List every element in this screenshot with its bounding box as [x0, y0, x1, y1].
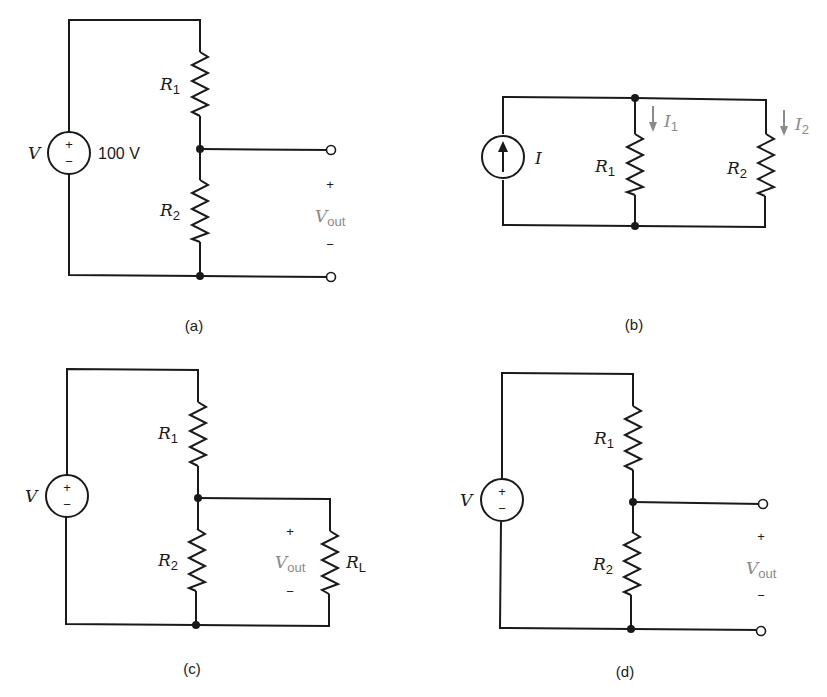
resistor-c-rl	[322, 531, 338, 594]
node-a-bottom	[196, 272, 204, 280]
vout-d-minus: −	[757, 588, 765, 603]
vout-a-minus: −	[326, 237, 334, 252]
label-d-r1: R1	[593, 428, 614, 451]
resistor-b-r2	[758, 134, 774, 196]
label-c-r1: R1	[157, 423, 178, 446]
terminal-a-bottom[interactable]	[327, 273, 336, 282]
node-d-mid	[629, 498, 637, 506]
circuit-d: + − V R1 R2 + Vout − (d)	[460, 373, 777, 680]
resistor-b-r1	[627, 134, 643, 195]
label-c-rl: RL	[345, 552, 366, 575]
resistor-c-r1	[190, 402, 206, 466]
terminal-d-bottom[interactable]	[757, 627, 766, 636]
wire-d-output-top	[633, 502, 762, 504]
circuit-b: I I1 I2 R1 R2 (b)	[482, 94, 809, 333]
label-b-i1: I1	[663, 111, 678, 134]
wire-c-load-top	[198, 498, 330, 531]
label-a-r1: R1	[159, 74, 180, 97]
vout-d-plus: +	[757, 529, 765, 544]
wire-a-top	[69, 20, 200, 132]
caption-a: (a)	[185, 317, 203, 334]
node-b-bottom	[631, 222, 639, 230]
label-b-r1: R1	[594, 156, 615, 179]
vout-c-minus: −	[286, 584, 294, 599]
label-c-vout: Vout	[275, 552, 306, 575]
label-c-r2: R2	[157, 550, 178, 573]
source-a-label: V	[28, 143, 42, 163]
label-d-r2: R2	[592, 554, 613, 577]
label-b-i2: I2	[794, 114, 809, 137]
terminal-a-top[interactable]	[327, 146, 336, 155]
node-d-bottom	[627, 625, 635, 633]
resistor-a-r2	[192, 180, 208, 242]
wire-a-output-top	[200, 149, 330, 150]
source-d-plus: +	[498, 484, 506, 499]
label-d-vout: Vout	[746, 558, 777, 581]
vout-c-plus: +	[286, 524, 294, 539]
source-a-minus: −	[65, 154, 73, 169]
circuit-figure: + − V 100 V R1 R2 + Vout − (a) I I1 I2 R…	[0, 0, 827, 697]
wire-c-top	[67, 369, 198, 475]
wire-d-top	[502, 373, 633, 479]
label-a-vout: Vout	[315, 206, 346, 229]
caption-d: (d)	[616, 663, 634, 680]
terminal-d-top[interactable]	[759, 500, 768, 509]
resistor-d-r2	[624, 532, 640, 595]
vout-a-plus: +	[326, 177, 334, 192]
source-c-minus: −	[63, 497, 71, 512]
resistor-c-r2	[189, 529, 205, 591]
arrow-down-icon-i2	[780, 126, 788, 136]
label-b-r2: R2	[726, 158, 747, 181]
source-c-plus: +	[63, 480, 71, 495]
caption-b: (b)	[625, 316, 643, 333]
node-a-mid	[196, 145, 204, 153]
source-d-minus: −	[498, 501, 506, 516]
node-b-top	[631, 94, 639, 102]
source-c-label: V	[25, 486, 39, 506]
source-a-value: 100 V	[98, 145, 140, 162]
node-c-mid	[194, 494, 202, 502]
source-a-plus: +	[65, 137, 73, 152]
node-c-bottom	[192, 621, 200, 629]
source-b-label: I	[534, 148, 542, 168]
resistor-a-r1	[192, 52, 208, 116]
resistor-d-r1	[625, 406, 641, 470]
circuit-a: + − V 100 V R1 R2 + Vout − (a)	[28, 20, 346, 334]
circuit-c: + − V R1 R2 RL + Vout − (c)	[25, 369, 366, 677]
label-a-r2: R2	[159, 200, 180, 223]
arrow-down-icon-i1	[649, 122, 657, 132]
caption-c: (c)	[183, 660, 201, 677]
source-d-label: V	[460, 490, 474, 510]
